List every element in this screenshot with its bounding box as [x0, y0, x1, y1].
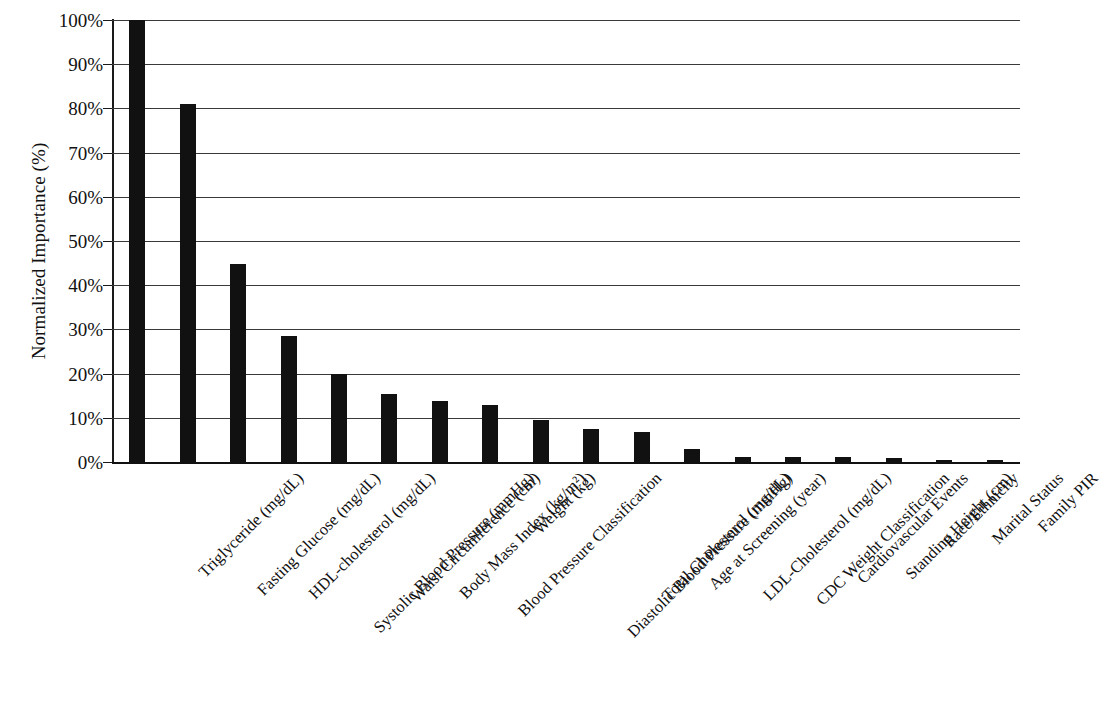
y-axis-tick-labels: 100%90%80%70%60%50%40%30%20%10%0%: [0, 20, 103, 462]
bar: [281, 336, 297, 462]
y-axis-tick-label: 30%: [68, 320, 103, 339]
y-axis-tick-mark: [103, 241, 112, 242]
y-axis-tick-label: 10%: [68, 409, 103, 428]
bar: [634, 432, 650, 462]
y-axis-tick-mark: [103, 153, 112, 154]
bar: [432, 401, 448, 462]
bars-container: [112, 20, 1020, 462]
y-axis-tick-label: 70%: [68, 144, 103, 163]
y-axis-tick-label: 40%: [68, 276, 103, 295]
y-axis-tick-mark: [103, 64, 112, 65]
y-axis-tick-mark: [103, 108, 112, 109]
bar: [482, 405, 498, 462]
bar: [583, 429, 599, 462]
y-axis-tick-label: 60%: [68, 188, 103, 207]
bar: [180, 104, 196, 462]
bar: [129, 20, 145, 462]
y-axis-tick-label: 50%: [68, 232, 103, 251]
y-axis-tick-mark: [103, 374, 112, 375]
y-axis-tick-label: 80%: [68, 99, 103, 118]
y-axis-tick-mark: [103, 329, 112, 330]
bar: [533, 420, 549, 462]
x-axis-category-labels: Triglyceride (mg/dL)Fasting Glucose (mg/…: [0, 462, 1024, 721]
bar: [684, 449, 700, 462]
y-axis-tick-mark: [103, 197, 112, 198]
y-axis-tick-mark: [103, 285, 112, 286]
y-axis-tick-mark: [103, 418, 112, 419]
y-axis-tick-label: 90%: [68, 55, 103, 74]
y-axis-tick-label: 20%: [68, 365, 103, 384]
y-axis-tick-label: 100%: [59, 11, 103, 30]
x-axis-category-label: Blood Pressure Classification: [515, 470, 665, 620]
bar: [381, 394, 397, 462]
y-axis-tick-mark: [103, 20, 112, 21]
bar: [331, 374, 347, 462]
bar: [230, 264, 246, 462]
